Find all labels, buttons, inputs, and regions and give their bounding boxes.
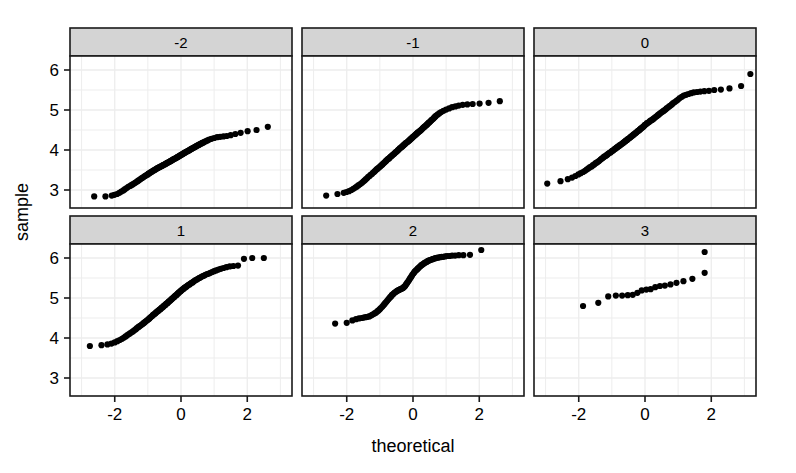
y-axis-title: sample <box>12 183 32 241</box>
x-tick-label: 2 <box>707 405 716 424</box>
facet-panel: 0 <box>534 28 756 208</box>
facet-panel: -1 <box>302 28 524 208</box>
facet-strip-label: 1 <box>177 222 185 239</box>
facet-strip-label: 0 <box>641 34 649 51</box>
y-tick-label: 5 <box>50 289 59 308</box>
y-tick-label: 3 <box>50 369 59 388</box>
x-tick-label: 2 <box>475 405 484 424</box>
x-tick-label: -2 <box>107 405 122 424</box>
y-tick-label: 3 <box>50 181 59 200</box>
y-tick-label: 6 <box>50 249 59 268</box>
facet-panel: -2 <box>70 28 292 208</box>
y-tick-label: 4 <box>50 329 59 348</box>
facet-strip-label: 2 <box>409 222 417 239</box>
y-tick-label: 6 <box>50 61 59 80</box>
x-tick-label: -2 <box>339 405 354 424</box>
y-tick-label: 4 <box>50 141 59 160</box>
facet-strip-label: -1 <box>406 34 419 51</box>
x-tick-label: 0 <box>640 405 649 424</box>
x-tick-label: 0 <box>176 405 185 424</box>
facet-panel: 1 <box>70 216 292 396</box>
x-tick-label: 0 <box>408 405 417 424</box>
facet-strip-label: -2 <box>174 34 187 51</box>
facet-panel: 3 <box>534 216 756 396</box>
x-tick-label: 2 <box>243 405 252 424</box>
y-tick-label: 5 <box>50 101 59 120</box>
x-tick-label: -2 <box>571 405 586 424</box>
x-axis-title: theoretical <box>371 436 454 456</box>
facet-panel: 2 <box>302 216 524 396</box>
facet-strip-label: 3 <box>641 222 649 239</box>
qq-plot-figure: -2-10123 3456-2023456-202-202 sample the… <box>0 0 796 473</box>
qq-plot-svg: -2-10123 3456-2023456-202-202 sample the… <box>0 0 796 473</box>
